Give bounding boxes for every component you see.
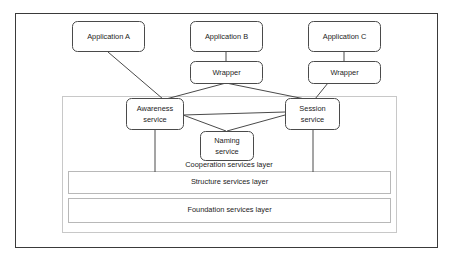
- diagram-figure: Application A Application B Application …: [0, 0, 453, 262]
- naming-service-label-line2: service: [215, 147, 238, 156]
- session-service-node[interactable]: Session service: [286, 99, 340, 130]
- application-b-label: Application B: [205, 32, 248, 41]
- wrapper-c-node[interactable]: Wrapper: [309, 62, 381, 84]
- cooperation-services-layer-label: Cooperation services layer: [185, 160, 273, 169]
- structure-services-layer-label: Structure services layer: [191, 177, 269, 186]
- application-a-node[interactable]: Application A: [73, 22, 145, 52]
- architecture-diagram: Application A Application B Application …: [0, 0, 453, 262]
- session-service-label-line2: service: [301, 115, 324, 124]
- naming-service-node[interactable]: Naming service: [201, 132, 254, 161]
- wrapper-b-label: Wrapper: [212, 68, 241, 77]
- application-c-label: Application C: [323, 32, 367, 41]
- awareness-service-label-line2: service: [143, 115, 166, 124]
- application-b-node[interactable]: Application B: [191, 22, 263, 52]
- foundation-services-layer-label: Foundation services layer: [187, 205, 272, 214]
- application-c-node[interactable]: Application C: [309, 22, 381, 52]
- wrapper-b-node[interactable]: Wrapper: [191, 62, 263, 84]
- awareness-service-node[interactable]: Awareness service: [127, 99, 184, 130]
- awareness-service-label-line1: Awareness: [137, 104, 174, 113]
- wrapper-c-label: Wrapper: [330, 68, 359, 77]
- connector-app-a-to-awareness: [108, 52, 163, 99]
- application-a-label: Application A: [87, 32, 130, 41]
- naming-service-label-line1: Naming: [214, 136, 239, 145]
- session-service-label-line1: Session: [299, 104, 325, 113]
